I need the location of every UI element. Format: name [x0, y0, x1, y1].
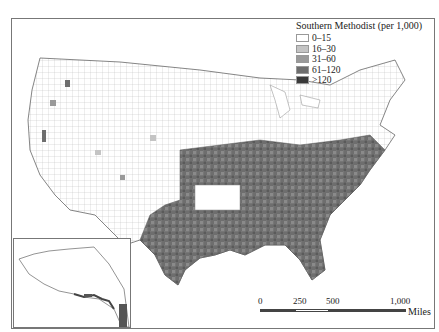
legend-label: 16–30: [312, 44, 336, 54]
legend-label: 61–120: [312, 65, 341, 75]
scale-bar: 0 250 500 1,000 Miles: [258, 296, 433, 326]
legend-item: 0–15: [296, 33, 436, 44]
legend-title: Southern Methodist (per 1,000): [296, 20, 436, 31]
legend-item: 31–60: [296, 54, 436, 65]
alaska-map: [14, 239, 130, 327]
map-legend: Southern Methodist (per 1,000) 0–15 16–3…: [296, 20, 436, 86]
scale-tick: 0: [258, 296, 263, 306]
legend-item: 16–30: [296, 44, 436, 55]
legend-swatch: [296, 66, 309, 74]
scale-tick: 500: [326, 296, 340, 306]
scale-tick: 250: [293, 296, 307, 306]
legend-label: >120: [312, 75, 332, 85]
scale-segment: [329, 309, 406, 312]
scale-segment: [260, 309, 295, 312]
legend-label: 31–60: [312, 54, 336, 64]
legend-swatch: [296, 76, 309, 84]
legend-item: 61–120: [296, 65, 436, 76]
legend-label: 0–15: [312, 33, 331, 43]
legend-item: >120: [296, 75, 436, 86]
legend-swatch: [296, 34, 309, 42]
scale-tick: 1,000: [390, 296, 410, 306]
scale-segment: [295, 309, 329, 312]
scale-unit: Miles: [408, 306, 431, 317]
legend-swatch: [296, 45, 309, 53]
legend-swatch: [296, 55, 309, 63]
alaska-inset: [13, 238, 131, 328]
